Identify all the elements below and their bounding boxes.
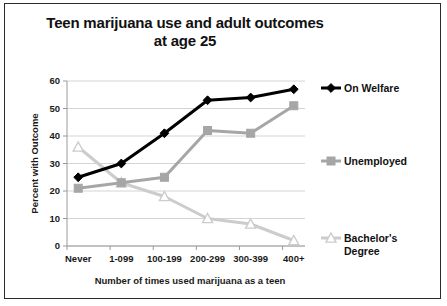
x-category-label: 200-299 xyxy=(190,253,225,264)
data-point-marker xyxy=(73,142,83,151)
data-point-marker xyxy=(74,173,83,182)
series-line xyxy=(78,147,294,241)
data-point-marker xyxy=(246,93,255,102)
y-tick-label: 10 xyxy=(49,213,60,224)
data-point-marker xyxy=(204,127,212,135)
legend-label-wrap: Degree xyxy=(344,245,380,257)
legend-label: Unemployed xyxy=(344,155,407,167)
chart-plot: 0102030405060 Never1-099100-199200-29930… xyxy=(5,4,442,300)
data-point-marker xyxy=(74,184,82,192)
y-tick-label: 50 xyxy=(49,103,60,114)
y-tick-label: 60 xyxy=(49,75,60,86)
x-tick-marks-group xyxy=(67,246,283,250)
series-bachelor-s-degree xyxy=(73,142,299,245)
x-category-label: 400+ xyxy=(283,253,305,264)
y-tick-label: 40 xyxy=(49,130,60,141)
y-tick-labels-group: 0102030405060 xyxy=(49,75,67,251)
x-axis-title: Number of times used marijuana as a teen xyxy=(95,275,286,286)
data-point-marker xyxy=(117,179,125,187)
chart-legend: On WelfareUnemployedBachelor'sDegree xyxy=(321,82,407,257)
chart-frame: Teen marijuana use and adult outcomes at… xyxy=(4,3,441,299)
series-line xyxy=(78,89,294,177)
series-on-welfare xyxy=(74,85,298,182)
legend-entry[interactable]: On Welfare xyxy=(321,82,399,94)
legend-entry[interactable]: Bachelor's xyxy=(321,232,397,244)
data-point-marker xyxy=(327,84,336,93)
x-category-label: 100-199 xyxy=(147,253,182,264)
legend-entry[interactable]: Unemployed xyxy=(321,155,407,167)
data-point-marker xyxy=(327,157,335,165)
data-point-marker xyxy=(290,102,298,110)
y-axis-title: Percent with Outcome xyxy=(29,113,40,213)
x-category-label: 1-099 xyxy=(109,253,133,264)
x-category-label: Never xyxy=(65,253,92,264)
x-category-labels-group: Never1-099100-199200-299300-399400+ xyxy=(65,253,305,264)
legend-label: Bachelor's xyxy=(344,232,397,244)
y-tick-label: 0 xyxy=(55,240,60,251)
gridlines-group xyxy=(67,81,305,246)
data-point-marker xyxy=(289,85,298,94)
y-tick-label: 30 xyxy=(49,158,60,169)
data-point-marker xyxy=(247,129,255,137)
x-category-label: 300-399 xyxy=(233,253,268,264)
y-tick-label: 20 xyxy=(49,185,60,196)
legend-label: On Welfare xyxy=(344,82,399,94)
data-point-marker xyxy=(160,173,168,181)
